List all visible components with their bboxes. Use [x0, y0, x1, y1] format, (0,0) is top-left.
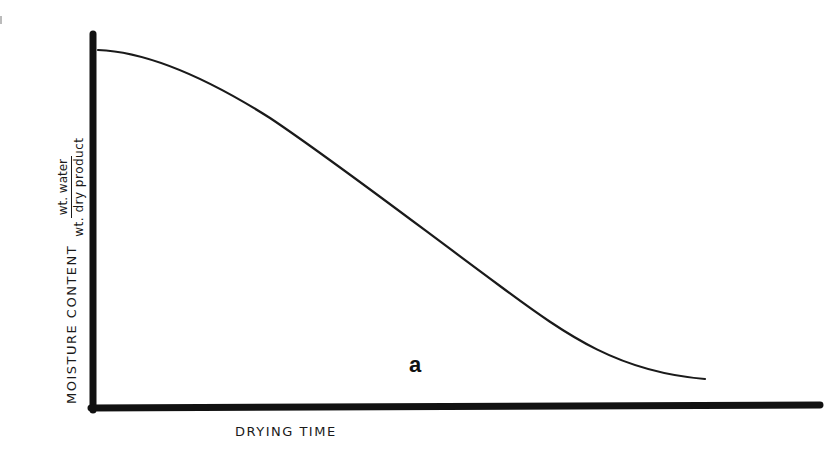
curve-label: a: [409, 352, 421, 378]
drying-curve: [98, 50, 705, 379]
x-axis: [91, 405, 820, 408]
x-axis-label: DRYING TIME: [235, 424, 337, 439]
units-denominator: wt. dry product: [72, 137, 86, 236]
y-axis-units-fraction: wt. water wt. dry product: [57, 137, 86, 236]
units-numerator: wt. water: [57, 156, 72, 218]
y-axis-title: MOISTURE CONTENT: [64, 245, 79, 404]
drying-curve-chart: [0, 0, 824, 468]
y-axis-label: MOISTURE CONTENT wt. water wt. dry produ…: [57, 137, 86, 404]
